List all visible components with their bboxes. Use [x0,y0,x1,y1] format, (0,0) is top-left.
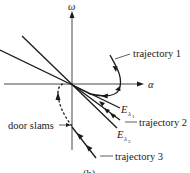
trajectory-3-curve [72,127,96,158]
eigenvector-1-label: E λ 1 [120,104,135,119]
svg-text:1: 1 [132,114,135,119]
arrow-up-icon [56,92,61,100]
arrow-right-icon [66,123,71,127]
arrow-left-icon [110,113,116,119]
svg-text:2: 2 [128,139,131,144]
arrow-left-icon [101,94,108,99]
figure-caption: (b) [83,168,96,173]
svg-text:λ: λ [127,110,131,118]
trajectory-1-label: trajectory 1 [133,48,181,59]
door-slams-label: door slams [8,120,54,131]
svg-text:E: E [120,104,128,115]
trajectory-1-curve [74,55,121,96]
arrow-down-icon [113,66,118,72]
trajectory-3-label: trajectory 3 [115,151,163,162]
arrow-up-icon [86,145,93,152]
alpha-axis-label: α [148,79,154,90]
phase-portrait: ω α trajectory 1 trajectory 2 trajectory… [0,0,190,173]
omega-axis-label: ω [68,1,75,12]
eigenvector-2-label: E λ 2 [116,129,131,144]
eigenvector-line-2 [22,36,117,128]
svg-text:λ: λ [123,135,127,143]
trajectory-2-label: trajectory 2 [139,117,187,128]
arrow-up-icon [70,11,75,18]
arrow-down-icon [115,86,121,91]
arrow-right-icon [137,82,144,87]
arrow-up-icon [77,133,84,140]
door-slam-dashed-path [58,84,72,126]
trajectory-1-leader [115,54,130,59]
svg-text:E: E [116,129,124,140]
